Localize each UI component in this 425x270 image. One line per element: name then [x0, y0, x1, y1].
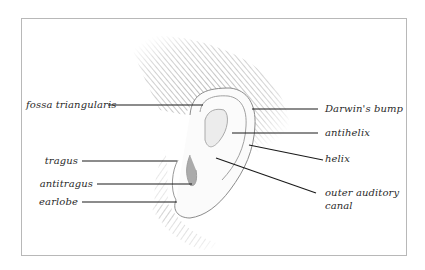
label-earlobe: earlobe [30, 196, 78, 207]
label-darwins-bump: Darwin's bump [325, 103, 403, 114]
label-outer-auditory: outer auditory [325, 187, 399, 198]
label-canal: canal [325, 200, 353, 211]
label-antitragus: antitragus [30, 178, 93, 189]
label-helix: helix [325, 153, 350, 164]
label-fossa-triangularis: fossa triangularis [26, 99, 104, 110]
label-antihelix: antihelix [325, 127, 370, 138]
label-tragus: tragus [30, 155, 78, 166]
